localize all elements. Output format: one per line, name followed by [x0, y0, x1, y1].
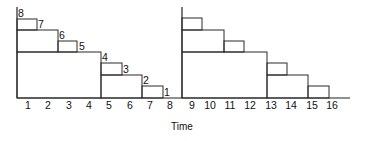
- left-block-3: [17, 19, 37, 30]
- left-block-4: [58, 41, 77, 52]
- tick-label-2: 2: [45, 99, 51, 111]
- left-block-2: [17, 30, 58, 52]
- step-label-5: 5: [79, 40, 85, 52]
- right-panel: [182, 18, 329, 98]
- tick-label-14: 14: [285, 99, 297, 111]
- right-block-3: [182, 18, 202, 30]
- tick-label-5: 5: [106, 99, 112, 111]
- right-block-4: [224, 41, 244, 52]
- right-block-5: [267, 75, 308, 98]
- left-block-5: [101, 75, 142, 98]
- step-label-4: 4: [102, 51, 108, 63]
- step-label-8: 8: [18, 7, 24, 19]
- right-block-7: [308, 86, 329, 98]
- tick-label-9: 9: [189, 99, 195, 111]
- x-axis-tick-labels: 12345678910111213141516: [25, 99, 338, 111]
- tick-label-7: 7: [147, 99, 153, 111]
- tick-label-10: 10: [204, 99, 216, 111]
- tick-label-3: 3: [66, 99, 72, 111]
- tick-label-12: 12: [244, 99, 256, 111]
- tick-label-16: 16: [326, 99, 338, 111]
- right-block-2: [182, 30, 224, 52]
- step-label-7: 7: [38, 18, 44, 30]
- tick-label-13: 13: [265, 99, 277, 111]
- step-label-3: 3: [123, 63, 129, 75]
- right-block-6: [267, 63, 287, 75]
- left-block-1: [17, 52, 101, 98]
- staircase-diagram: 87654321 12345678910111213141516 Time: [0, 0, 366, 141]
- left-block-7: [142, 86, 163, 98]
- tick-label-8: 8: [167, 99, 173, 111]
- step-label-2: 2: [143, 74, 149, 86]
- left-panel: [17, 19, 163, 98]
- tick-label-11: 11: [225, 99, 236, 111]
- tick-label-4: 4: [86, 99, 92, 111]
- x-axis-title: Time: [171, 121, 193, 132]
- tick-label-1: 1: [25, 99, 31, 111]
- step-label-6: 6: [59, 29, 65, 41]
- tick-label-15: 15: [306, 99, 318, 111]
- left-block-6: [101, 63, 122, 75]
- step-label-1: 1: [164, 86, 170, 98]
- right-block-1: [182, 52, 267, 98]
- tick-label-6: 6: [127, 99, 133, 111]
